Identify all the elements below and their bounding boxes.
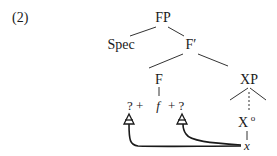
- edge-fbar-f: [149, 54, 183, 68]
- edge-xp-left: [230, 88, 248, 100]
- arrowhead-left-slot-icon: [124, 114, 134, 124]
- arrowhead-right-slot-icon: [177, 114, 187, 124]
- node-spec: Spec: [107, 37, 134, 52]
- x-terminal: x: [243, 138, 250, 153]
- node-x-head: X o: [238, 113, 256, 130]
- node-xp: XP: [240, 72, 258, 87]
- right-slot-label: + ?: [168, 98, 185, 113]
- syntax-tree-diagram: (2) FP Spec F′ F XP ? + f + ? X o x: [0, 0, 277, 156]
- node-f: F: [155, 72, 163, 87]
- left-slot-label: ? +: [127, 98, 143, 113]
- edge-xp-right: [250, 88, 266, 100]
- node-x-head-superscript: o: [251, 113, 256, 123]
- node-fbar: F′: [186, 37, 197, 52]
- edge-fp-fbar: [168, 27, 184, 36]
- node-fp: FP: [155, 10, 171, 25]
- movement-arrow-to-right-slot: [183, 124, 241, 145]
- example-number: (2): [12, 10, 29, 26]
- node-x-head-label: X: [238, 115, 248, 130]
- edge-fbar-xp: [198, 54, 228, 66]
- edge-fp-spec: [130, 27, 156, 36]
- f-terminal: f: [156, 98, 162, 113]
